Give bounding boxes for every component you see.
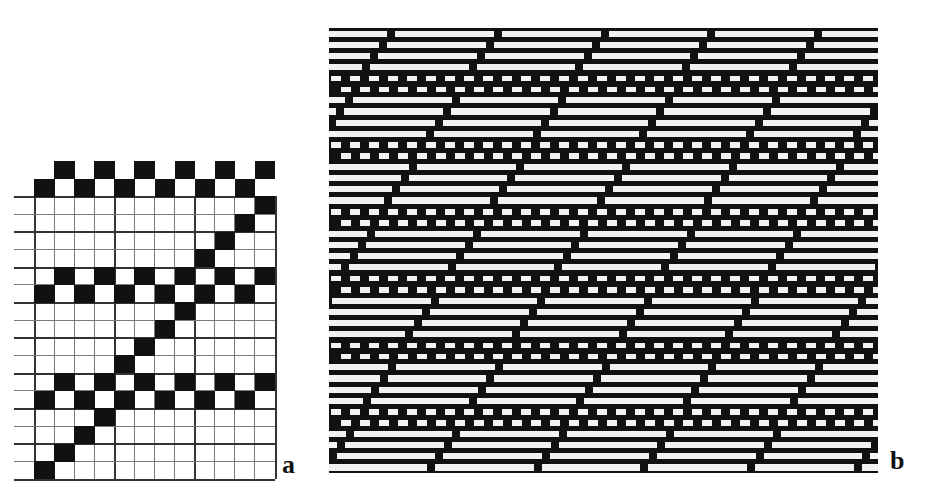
plain-weave-point xyxy=(388,276,398,282)
weft-float xyxy=(707,42,806,48)
filled-cell xyxy=(134,161,155,179)
plain-weave-point xyxy=(844,209,854,215)
plain-weave-point xyxy=(417,153,427,159)
plain-weave-point xyxy=(797,420,807,426)
filled-cell xyxy=(215,373,236,391)
weft-float xyxy=(387,42,486,48)
plain-weave-point xyxy=(645,220,655,226)
plain-weave-point xyxy=(360,287,370,293)
weft-float xyxy=(793,242,878,248)
plain-weave-point xyxy=(626,87,636,93)
plain-weave-point xyxy=(407,276,417,282)
plain-weave-point xyxy=(512,287,522,293)
grid-line xyxy=(14,426,275,427)
plain-weave-point xyxy=(474,287,484,293)
plain-weave-point xyxy=(768,409,778,415)
plain-weave-point xyxy=(341,420,351,426)
plain-weave-point xyxy=(787,343,797,349)
plain-weave-point xyxy=(654,409,664,415)
weft-float xyxy=(844,164,878,170)
plain-weave-point xyxy=(502,409,512,415)
plain-weave-point xyxy=(436,87,446,93)
plain-weave-point xyxy=(664,354,674,360)
plain-weave-point xyxy=(654,142,664,148)
plain-weave-point xyxy=(635,276,645,282)
plain-weave-point xyxy=(835,354,845,360)
weft-float xyxy=(498,197,597,203)
plain-weave-point xyxy=(341,287,351,293)
plain-weave-point xyxy=(664,420,674,426)
weft-float xyxy=(481,231,580,237)
plain-weave-point xyxy=(483,209,493,215)
weave-draft-grid xyxy=(34,161,275,479)
weft-float xyxy=(329,42,379,48)
weft-float xyxy=(494,375,593,381)
plain-weave-point xyxy=(749,343,759,349)
plain-weave-point xyxy=(493,87,503,93)
weft-float xyxy=(354,431,453,437)
plain-weave-point xyxy=(654,209,664,215)
plain-weave-point xyxy=(778,420,788,426)
filled-cell xyxy=(155,285,176,303)
weft-float xyxy=(329,331,405,337)
weft-float xyxy=(370,64,469,70)
plain-weave-point xyxy=(398,420,408,426)
filled-cell xyxy=(235,285,256,303)
filled-cell xyxy=(74,391,95,409)
filled-cell xyxy=(195,179,216,197)
plain-weave-point xyxy=(388,142,398,148)
plain-weave-point xyxy=(616,142,626,148)
weft-float xyxy=(329,375,380,381)
plain-weave-point xyxy=(692,76,702,82)
filled-cell xyxy=(134,267,155,285)
weft-float xyxy=(754,131,853,137)
plain-weave-point xyxy=(854,153,864,159)
plain-weave-point xyxy=(597,276,607,282)
filled-cell xyxy=(134,338,155,356)
weft-float xyxy=(329,264,341,270)
plain-weave-point xyxy=(569,287,579,293)
plain-weave-point xyxy=(759,420,769,426)
weft-float xyxy=(345,442,444,448)
plain-weave-point xyxy=(550,287,560,293)
plain-weave-point xyxy=(854,354,864,360)
weft-float xyxy=(609,31,708,37)
weft-float xyxy=(648,464,747,470)
plain-weave-point xyxy=(778,87,788,93)
filled-cell xyxy=(114,285,135,303)
plain-weave-point xyxy=(664,287,674,293)
weft-float xyxy=(456,264,555,270)
plain-weave-point xyxy=(645,420,655,426)
plain-weave-point xyxy=(455,354,465,360)
plain-weave-point xyxy=(331,209,341,215)
weft-float xyxy=(627,331,726,337)
plain-weave-point xyxy=(711,142,721,148)
weft-float xyxy=(486,387,585,393)
plain-weave-point xyxy=(863,343,873,349)
plain-weave-point xyxy=(664,220,674,226)
plain-weave-point xyxy=(455,87,465,93)
plain-weave-point xyxy=(559,409,569,415)
weft-float xyxy=(715,31,814,37)
plain-weave-point xyxy=(578,142,588,148)
plain-weave-point xyxy=(417,220,427,226)
weft-float xyxy=(635,320,734,326)
weft-float xyxy=(866,298,878,304)
plain-weave-point xyxy=(607,220,617,226)
plain-weave-point xyxy=(540,209,550,215)
plain-weave-point xyxy=(474,220,484,226)
plain-weave-point xyxy=(607,153,617,159)
weft-float xyxy=(329,398,363,404)
plain-weave-point xyxy=(835,220,845,226)
plain-weave-point xyxy=(588,287,598,293)
panel-label-b: b xyxy=(890,448,904,474)
weft-float xyxy=(329,442,337,448)
plain-weave-point xyxy=(607,420,617,426)
weft-float xyxy=(329,309,422,315)
weft-float xyxy=(592,53,691,59)
weft-float xyxy=(823,364,878,370)
weft-float xyxy=(559,442,658,448)
plain-weave-point xyxy=(863,76,873,82)
plain-weave-point xyxy=(407,343,417,349)
plain-weave-point xyxy=(464,409,474,415)
